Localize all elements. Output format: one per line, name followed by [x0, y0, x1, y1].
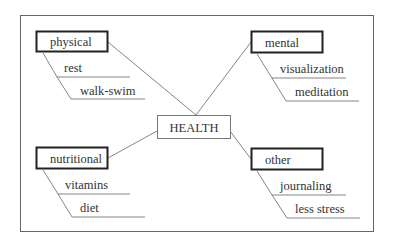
branch-label: mental — [265, 36, 300, 50]
branch-item: journaling — [279, 179, 332, 193]
branch-physical: physical rest walk-swim — [37, 32, 146, 100]
branch-item: meditation — [295, 85, 349, 99]
branch-item: diet — [80, 201, 99, 215]
branch-item: visualization — [280, 62, 345, 76]
branch-other: other journaling less stress — [252, 149, 361, 219]
center-node: HEALTH — [158, 116, 231, 139]
branch-label: other — [265, 153, 292, 167]
connector-physical — [108, 42, 196, 115]
connector-mental — [196, 42, 251, 115]
center-label: HEALTH — [170, 121, 219, 135]
branch-nutritional: nutritional vitamins diet — [37, 148, 146, 218]
branch-item: less stress — [295, 202, 345, 216]
mind-map-diagram: HEALTH physical rest walk-swim mental vi… — [0, 0, 393, 248]
branch-item: vitamins — [65, 178, 108, 192]
connector-nutritional — [108, 131, 157, 158]
connector-other — [230, 131, 251, 159]
branch-mental: mental visualization meditation — [252, 32, 360, 102]
branch-item: rest — [64, 61, 83, 75]
branch-label: physical — [50, 35, 92, 49]
branch-item: walk-swim — [80, 84, 136, 98]
branch-label: nutritional — [50, 152, 103, 166]
